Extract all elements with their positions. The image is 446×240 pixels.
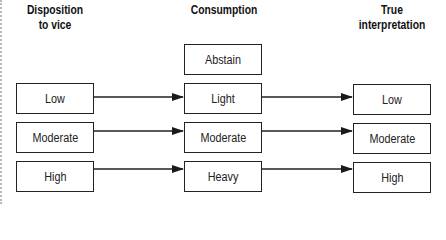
- box-consumption-heavy: Heavy: [184, 161, 262, 192]
- box-interpretation-moderate: Moderate: [353, 123, 431, 154]
- box-label: Heavy: [208, 170, 239, 184]
- box-label: Light: [211, 92, 234, 106]
- box-disposition-low: Low: [16, 83, 94, 114]
- box-disposition-high: High: [16, 161, 94, 192]
- box-label: High: [381, 171, 403, 185]
- box-consumption-abstain: Abstain: [184, 44, 262, 75]
- box-label: Moderate: [200, 131, 246, 145]
- box-label: High: [44, 170, 66, 184]
- box-disposition-moderate: Moderate: [16, 122, 94, 153]
- box-interpretation-high: High: [353, 162, 431, 193]
- box-consumption-moderate: Moderate: [184, 122, 262, 153]
- box-label: Moderate: [369, 132, 415, 146]
- box-label: Moderate: [32, 131, 78, 145]
- box-label: Abstain: [205, 53, 241, 67]
- box-label: Low: [382, 93, 402, 107]
- box-label: Low: [45, 92, 65, 106]
- box-interpretation-low: Low: [353, 84, 431, 115]
- box-consumption-light: Light: [184, 83, 262, 114]
